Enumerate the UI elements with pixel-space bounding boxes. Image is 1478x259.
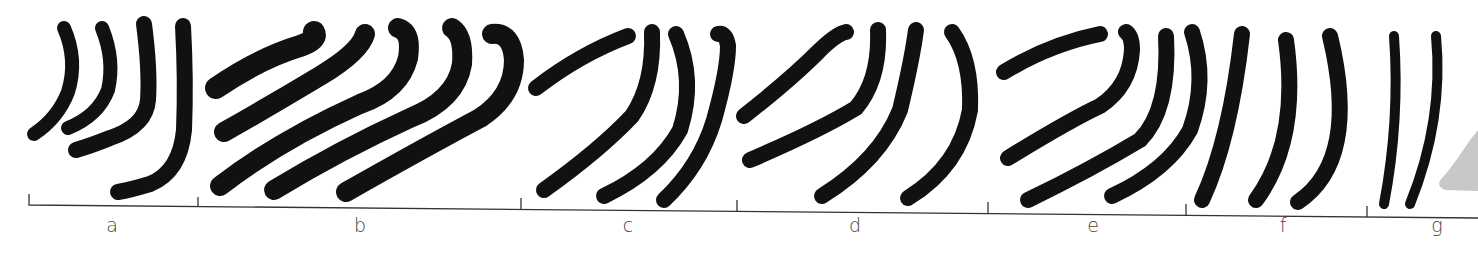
group-e-strokes [1004,32,1200,200]
group-b-strokes [216,28,514,192]
group-label-e: e [1087,214,1099,236]
group-label-d: d [849,214,861,236]
group-f-strokes [1202,34,1340,202]
group-d-strokes [744,30,970,198]
group-label-f: f [1280,214,1287,236]
group-label-c: c [623,214,633,236]
group-c-strokes [536,32,728,200]
stroke-diagram [0,0,1478,259]
group-label-a: a [106,214,118,236]
group-label-g: g [1431,214,1442,236]
group-a-strokes [34,24,185,192]
group-label-b: b [354,214,366,236]
gray-shadow-shape [1439,130,1478,191]
group-g-strokes [1384,36,1438,204]
